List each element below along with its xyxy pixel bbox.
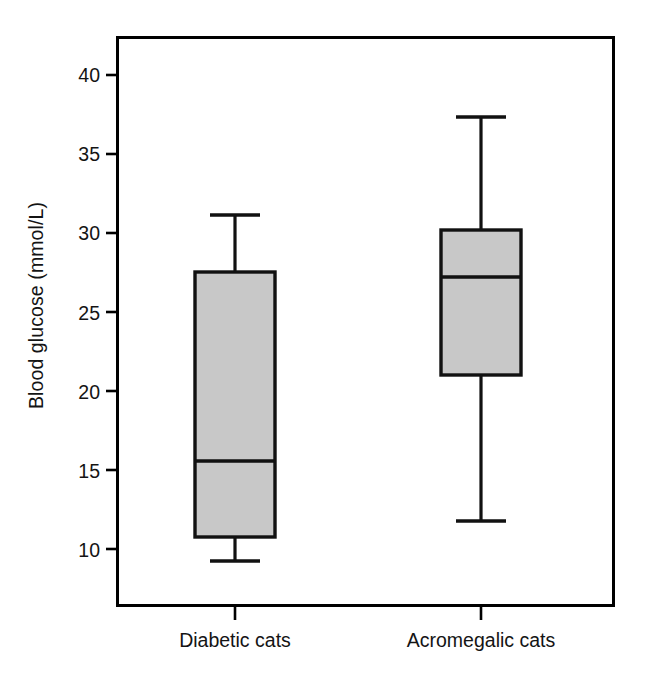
y-tick-label-15: 15 (58, 460, 100, 483)
box-iqr-diabetic[interactable] (195, 272, 275, 537)
x-tick-label-acromegalic-cats: Acromegalic cats (366, 629, 596, 652)
plot-canvas (0, 0, 645, 676)
plot-frame (118, 38, 614, 606)
x-axis-ticks (235, 606, 481, 620)
box-iqr-acromegalic[interactable] (441, 230, 521, 375)
y-tick-label-20: 20 (58, 381, 100, 404)
y-tick-label-30: 30 (58, 222, 100, 245)
y-tick-label-25: 25 (58, 302, 100, 325)
y-tick-label-35: 35 (58, 143, 100, 166)
x-tick-label-diabetic-cats: Diabetic cats (135, 629, 335, 652)
y-tick-label-40: 40 (58, 64, 100, 87)
y-tick-label-10: 10 (58, 539, 100, 562)
box-plot-figure: Blood glucose (mmol/L) 40 35 30 25 20 15… (0, 0, 645, 676)
